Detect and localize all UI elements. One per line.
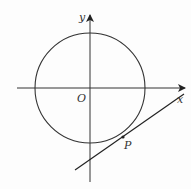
origin-label: O <box>77 92 86 105</box>
tangent-line <box>75 94 184 170</box>
y-axis-label: y <box>78 11 86 24</box>
x-axis-label: x <box>177 93 184 106</box>
point-p-label: P <box>123 139 132 152</box>
diagram-canvas: y x O P <box>0 0 191 189</box>
geometry-figure: y x O P <box>0 0 191 189</box>
